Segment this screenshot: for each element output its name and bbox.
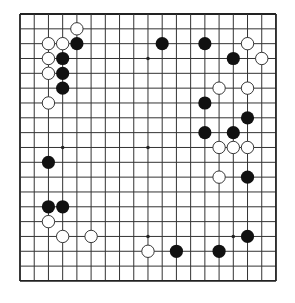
black-stone bbox=[42, 200, 55, 213]
white-stone bbox=[142, 245, 154, 257]
stones-layer[interactable] bbox=[42, 23, 268, 258]
black-stone bbox=[170, 245, 183, 258]
white-stone bbox=[42, 97, 54, 109]
black-stone bbox=[198, 37, 211, 50]
black-stone bbox=[42, 156, 55, 169]
star-point bbox=[146, 235, 150, 239]
black-stone bbox=[241, 111, 254, 124]
black-stone bbox=[56, 67, 69, 80]
black-stone bbox=[227, 52, 240, 65]
white-stone bbox=[42, 67, 54, 79]
white-stone bbox=[213, 141, 225, 153]
black-stone bbox=[198, 126, 211, 139]
black-stone bbox=[56, 52, 69, 65]
white-stone bbox=[42, 52, 54, 64]
white-stone bbox=[42, 215, 54, 227]
white-stone bbox=[56, 37, 68, 49]
white-stone bbox=[227, 141, 239, 153]
white-stone bbox=[85, 230, 97, 242]
star-point bbox=[146, 57, 150, 61]
black-stone bbox=[156, 37, 169, 50]
black-stone bbox=[212, 245, 225, 258]
black-stone bbox=[56, 200, 69, 213]
black-stone bbox=[241, 230, 254, 243]
star-point bbox=[232, 235, 236, 239]
black-stone bbox=[198, 96, 211, 109]
white-stone bbox=[42, 37, 54, 49]
white-stone bbox=[256, 52, 268, 64]
white-stone bbox=[71, 23, 83, 35]
black-stone bbox=[56, 82, 69, 95]
black-stone bbox=[70, 37, 83, 50]
go-board[interactable] bbox=[0, 0, 295, 303]
white-stone bbox=[213, 82, 225, 94]
white-stone bbox=[241, 37, 253, 49]
star-point bbox=[146, 146, 150, 150]
white-stone bbox=[213, 171, 225, 183]
white-stone bbox=[241, 141, 253, 153]
white-stone bbox=[241, 82, 253, 94]
black-stone bbox=[241, 171, 254, 184]
star-point bbox=[61, 146, 65, 150]
white-stone bbox=[56, 230, 68, 242]
black-stone bbox=[227, 126, 240, 139]
